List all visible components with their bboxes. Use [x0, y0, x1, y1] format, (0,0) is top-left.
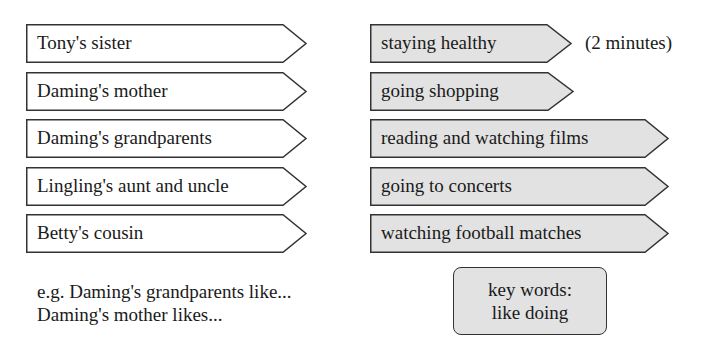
activity-arrow-reading-films: reading and watching films	[370, 119, 670, 158]
activity-label: reading and watching films	[381, 119, 588, 158]
person-arrow-tony-sister: Tony's sister	[26, 24, 308, 63]
activity-arrow-staying-healthy: staying healthy	[370, 24, 573, 63]
person-label: Betty's cousin	[37, 214, 143, 253]
time-note: (2 minutes)	[585, 24, 672, 62]
example-line: Daming's mother likes...	[37, 303, 292, 326]
key-words-box: key words: like doing	[453, 267, 607, 335]
activity-label: going shopping	[381, 72, 499, 111]
person-label: Daming's mother	[37, 72, 168, 111]
person-arrow-daming-mother: Daming's mother	[26, 72, 308, 111]
person-label: Daming's grandparents	[37, 119, 212, 158]
person-label: Lingling's aunt and uncle	[37, 167, 229, 206]
activity-arrow-concerts: going to concerts	[370, 167, 670, 206]
activity-label: watching football matches	[381, 214, 582, 253]
activity-arrow-football: watching football matches	[370, 214, 670, 253]
person-arrow-daming-grandparents: Daming's grandparents	[26, 119, 308, 158]
activity-label: going to concerts	[381, 167, 512, 206]
key-words-heading: key words:	[454, 278, 606, 301]
example-line: e.g. Daming's grandparents like...	[37, 280, 292, 303]
key-words-phrase: like doing	[454, 301, 606, 324]
activity-arrow-going-shopping: going shopping	[370, 72, 575, 111]
person-arrow-lingling-aunt-uncle: Lingling's aunt and uncle	[26, 167, 308, 206]
example-sentences: e.g. Daming's grandparents like... Damin…	[37, 280, 292, 326]
activity-label: staying healthy	[381, 24, 497, 63]
person-arrow-betty-cousin: Betty's cousin	[26, 214, 308, 253]
person-label: Tony's sister	[37, 24, 131, 63]
